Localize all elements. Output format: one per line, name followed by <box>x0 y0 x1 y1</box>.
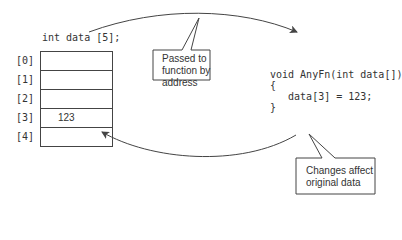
code-line: void AnyFn(int data[]) <box>270 69 402 80</box>
callout-pass-text: Passed to function by address <box>162 53 210 89</box>
array-cell: 123 <box>41 109 112 128</box>
code-line: } <box>270 102 402 113</box>
array-cell <box>41 128 112 148</box>
code-line: data[3] = 123; <box>270 91 402 102</box>
callout-changes-text: Changes affect original data <box>306 165 373 189</box>
index-label: [2] <box>16 93 38 104</box>
array-cell <box>41 52 112 71</box>
array-box: 123 <box>40 51 113 147</box>
code-line: { <box>270 80 402 91</box>
index-label: [4] <box>16 131 38 142</box>
index-label: [1] <box>16 74 38 85</box>
function-code: void AnyFn(int data[]){ data[3] = 123;} <box>270 69 402 113</box>
index-label: [0] <box>16 55 38 66</box>
array-declaration: int data [5]; <box>42 32 120 43</box>
cell-value: 123 <box>58 112 75 123</box>
return-arrow <box>102 132 296 157</box>
index-label: [3] <box>16 112 38 123</box>
array-cell <box>41 71 112 90</box>
array-cell <box>41 90 112 109</box>
